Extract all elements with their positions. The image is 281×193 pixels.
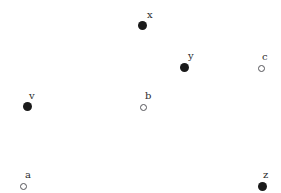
point-marker-c[interactable] <box>258 65 265 72</box>
point-label-a: a <box>25 170 31 180</box>
point-label-v: v <box>29 91 35 101</box>
point-label-y: y <box>188 51 194 61</box>
point-marker-a[interactable] <box>20 183 27 190</box>
point-label-c: c <box>262 52 268 62</box>
point-marker-b[interactable] <box>140 104 147 111</box>
point-label-b: b <box>145 91 151 101</box>
scatter-plot-canvas: xycvbaz <box>0 0 281 193</box>
point-marker-y[interactable] <box>180 63 189 72</box>
point-marker-z[interactable] <box>258 182 267 191</box>
point-label-z: z <box>263 170 268 180</box>
point-marker-v[interactable] <box>23 102 32 111</box>
point-label-x: x <box>147 10 153 20</box>
point-marker-x[interactable] <box>138 21 147 30</box>
